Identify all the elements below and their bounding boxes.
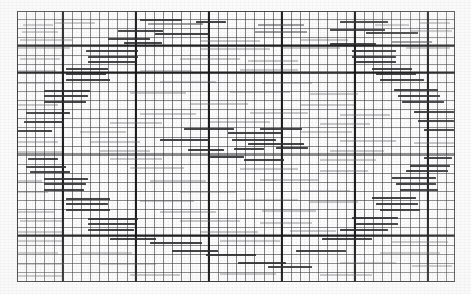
step-segment [396,183,436,185]
step-segment [424,157,452,159]
step-segment [340,262,396,264]
step-segment [148,23,203,25]
step-segment [26,166,66,168]
step-segment [66,198,110,200]
step-segment [398,95,440,97]
step-segment [110,158,162,160]
step-segment [380,79,424,81]
step-segment [352,217,398,219]
step-segment [66,203,108,205]
step-segment [180,220,240,222]
step-segment [180,191,236,193]
step-segment [18,275,62,277]
step-segment [18,130,52,132]
step-segment [300,131,352,133]
step-segment [402,101,444,103]
step-segment [88,56,138,58]
step-segment [20,39,72,41]
step-segment [90,141,140,143]
graph-paper-sheet [0,0,471,294]
step-segment [18,231,62,233]
step-segment [184,128,234,130]
step-segment [80,252,132,254]
step-segment [372,197,416,199]
step-segment [228,132,282,134]
step-segment [44,90,90,92]
step-segment [130,92,186,94]
step-segment [320,123,370,125]
step-segment [20,58,60,60]
step-segment [240,168,298,170]
step-segment [18,252,58,254]
step-segment [282,47,340,49]
step-segment [340,229,388,231]
step-segment [18,211,54,213]
step-segment [240,199,298,201]
step-segment [320,274,372,276]
step-segment [200,231,258,233]
step-segment [18,47,70,49]
step-segment [88,223,136,225]
step-segment [330,43,376,45]
step-segment [172,250,218,252]
step-segment [366,32,418,34]
step-segment [18,151,62,153]
step-segment [30,171,70,173]
step-segment [26,112,70,114]
step-segment [188,149,224,151]
step-segment [410,165,450,167]
step-segment [220,273,276,275]
step-segment [356,223,398,225]
step-segment [340,140,396,142]
step-segment [260,179,318,181]
step-segment [392,241,448,243]
step-segment [18,240,62,242]
step-segment [320,159,376,161]
step-segment [196,21,226,23]
step-segment [392,177,436,179]
step-segment [258,24,304,26]
step-segment [380,252,440,254]
step-segment [140,19,182,21]
step-segment [23,24,53,26]
step-segment [330,150,384,152]
step-segment [394,89,438,91]
step-segment [28,158,58,160]
step-segment [310,201,358,203]
step-segment [234,148,264,150]
step-segment [260,222,312,224]
step-segment [414,142,454,144]
step-segment [18,104,58,106]
step-segment [414,111,454,113]
step-segment [160,139,210,141]
step-segment [18,180,42,182]
step-segment [80,131,126,133]
step-segment [262,82,312,84]
step-segment [244,159,284,161]
step-segment [44,183,86,185]
step-segment [238,262,286,264]
step-segment [18,263,64,265]
step-segment [250,112,308,114]
step-segment [86,50,138,52]
step-segment [180,58,240,60]
step-segment [66,79,110,81]
step-segment [140,70,192,72]
step-segment [356,61,396,63]
step-segment [418,120,454,122]
step-segment [18,141,58,143]
step-segment [255,31,307,33]
step-segment [150,180,206,182]
step-segment [200,48,270,50]
step-segment [155,33,209,35]
step-segment [372,68,412,70]
step-segment [406,47,450,49]
step-segment [110,238,156,240]
step-segment [248,60,298,62]
step-segment [376,203,418,205]
step-segment [260,128,302,130]
step-segment [290,230,336,232]
step-segment [124,42,162,44]
step-segment [340,21,388,23]
step-segment [400,189,438,191]
